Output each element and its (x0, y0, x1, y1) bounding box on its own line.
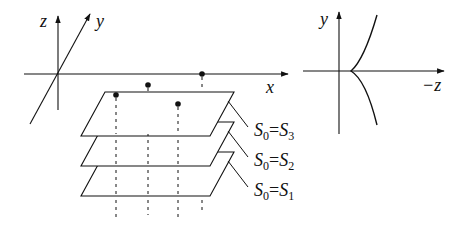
point-3 (175, 101, 181, 107)
leader-s1 (228, 161, 248, 187)
point-1 (113, 92, 119, 98)
right-y-label: y (318, 9, 328, 29)
label-s0-eq-s3: S0=S3 (254, 120, 294, 143)
label-s0-eq-s2: S0=S2 (254, 150, 294, 173)
label-s0-eq-s1: S0=S1 (254, 180, 294, 203)
y-axis (30, 14, 90, 124)
plane-s3 (81, 92, 234, 136)
point-4 (199, 71, 205, 77)
right-2d-figure: y −z (303, 9, 444, 134)
cusp-curve (351, 15, 377, 125)
y-axis-label: y (94, 11, 104, 31)
x-axis-label: x (265, 77, 274, 97)
point-2 (145, 82, 151, 88)
left-3d-figure: z y x (24, 11, 294, 220)
z-axis-label: z (39, 11, 47, 31)
diagram-canvas: z y x (0, 0, 456, 227)
right-neg-z-label: −z (422, 75, 441, 95)
